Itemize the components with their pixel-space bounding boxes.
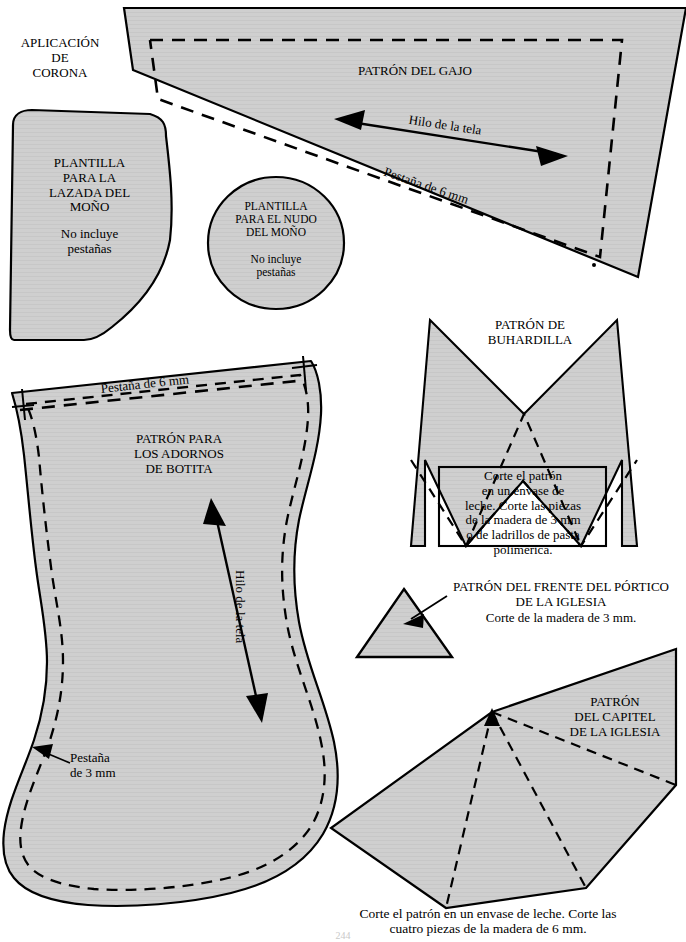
label-buhardilla-nota: Corte el patrón en un envase de leche. C…	[437, 469, 609, 558]
label-hilo-tela-botita: Hilo de la tela	[232, 570, 248, 643]
gajo-notch-dot	[592, 263, 596, 267]
lazada-outline	[10, 110, 172, 340]
page-number: 244	[0, 930, 686, 941]
piece-lazada-mono	[10, 110, 172, 340]
label-patron-botita: PATRÓN PARA LOS ADORNOS DE BOTITA	[105, 432, 253, 476]
label-patron-capitel: PATRÓN DEL CAPITEL DE LA IGLESIA	[545, 695, 685, 739]
label-portico-nota: Corte de la madera de 3 mm.	[436, 611, 686, 626]
nudo-outline	[208, 177, 344, 309]
label-patron-portico: PATRÓN DEL FRENTE DEL PÓRTICO DE LA IGLE…	[436, 580, 686, 610]
label-patron-buhardilla: PATRÓN DE BUHARDILLA	[455, 318, 605, 348]
label-aplicacion-corona: APLICACIÓN DE CORONA	[8, 36, 112, 80]
pattern-sheet: APLICACIÓN DE CORONA PATRÓN DEL GAJO Hil…	[0, 0, 686, 942]
label-plantilla-lazada: PLANTILLA PARA LA LAZADA DEL MOÑO	[22, 156, 157, 215]
label-plantilla-lazada-nota: No incluye pestañas	[22, 227, 157, 257]
label-plantilla-nudo-nota: No incluye pestañas	[209, 253, 343, 279]
label-patron-gajo: PATRÓN DEL GAJO	[300, 64, 530, 79]
capitel-outline	[331, 649, 676, 908]
piece-nudo-mono	[208, 177, 344, 309]
piece-capitel	[331, 649, 676, 908]
label-plantilla-nudo: PLANTILLA PARA EL NUDO DEL MOÑO	[209, 200, 343, 239]
label-pestana-3mm-botita: Pestaña de 3 mm	[70, 751, 160, 781]
